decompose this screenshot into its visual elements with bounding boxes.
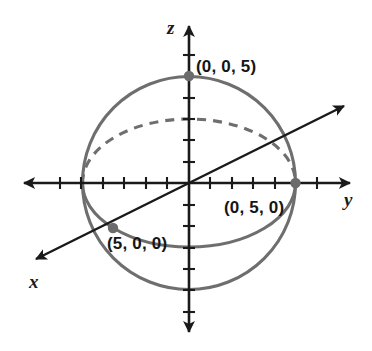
y-axis-label: y (342, 189, 353, 210)
point-marker-0-0-5 (184, 71, 194, 81)
sphere-coordinate-figure: (0, 0, 5) (0, 5, 0) (5, 0, 0) z y x (0, 0, 372, 351)
point-label-right: (0, 5, 0) (224, 198, 284, 217)
coordinate-diagram-canvas: (0, 0, 5) (0, 5, 0) (5, 0, 0) z y x (0, 0, 372, 351)
point-label-top: (0, 0, 5) (196, 57, 256, 76)
point-label-front: (5, 0, 0) (107, 234, 167, 253)
point-marker-0-5-0 (290, 178, 300, 188)
z-axis-label: z (166, 17, 175, 38)
point-marker-5-0-0 (108, 223, 118, 233)
x-axis-label: x (28, 271, 39, 292)
